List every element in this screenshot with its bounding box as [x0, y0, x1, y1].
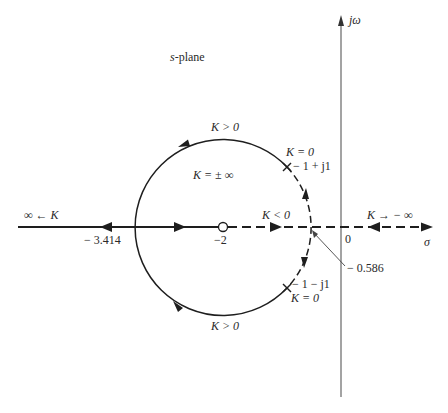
- imaginary-axis-arrow-icon: [338, 15, 344, 26]
- pole-upper-value: − 1 + j1: [293, 160, 331, 172]
- origin-label: 0: [345, 233, 351, 245]
- zero-value: −2: [214, 234, 227, 246]
- arrow-real-dashed-icon: [270, 222, 282, 232]
- breakaway-right-value: − 0.586: [347, 262, 384, 274]
- pole-upper-gain-label: K = 0: [286, 146, 314, 158]
- pole-lower-marker-icon: [283, 284, 291, 292]
- imag-axis-label: jω: [349, 14, 361, 26]
- arrow-top-arc-icon: [178, 140, 190, 148]
- k-negative-label: K < 0: [262, 209, 290, 221]
- root-locus-diagram: [0, 0, 448, 413]
- k-infinity-label: K = ± ∞: [193, 169, 233, 181]
- arrow-real-mid-icon: [174, 222, 186, 232]
- arrow-real-left-icon: [100, 222, 112, 232]
- pole-lower-value: − 1 − j1: [292, 278, 330, 290]
- k-positive-bottom-label: K > 0: [211, 320, 239, 332]
- k-positive-top-label: K > 0: [211, 121, 239, 133]
- arrow-dashed-lower-icon: [301, 257, 308, 268]
- infinity-left-label: ∞ ← K: [24, 209, 59, 221]
- real-axis-label: σ: [424, 236, 430, 248]
- plane-label-text: -plane: [175, 50, 205, 64]
- pole-upper-marker-icon: [283, 163, 291, 171]
- breakaway-left-value: − 3.414: [84, 234, 121, 246]
- zero-marker-icon: [219, 223, 228, 232]
- plane-label: s-plane: [170, 51, 205, 63]
- leader-line-0586: [313, 232, 345, 266]
- k-to-neg-infinity-label: K → − ∞: [367, 209, 413, 221]
- arrow-real-right-icon: [368, 222, 380, 232]
- pole-lower-gain-label: K = 0: [291, 292, 319, 304]
- real-axis-arrow-icon: [421, 223, 433, 232]
